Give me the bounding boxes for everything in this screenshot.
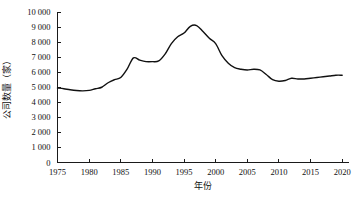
x-tick-label: 1985	[112, 167, 129, 177]
x-tick-label: 1990	[144, 167, 161, 177]
chart-container: 01 0002 0003 0004 0005 0006 0007 0008 00…	[0, 0, 363, 213]
y-tick-label: 2 000	[31, 127, 50, 137]
y-axis-tick-labels: 01 0002 0003 0004 0005 0006 0007 0008 00…	[27, 7, 50, 168]
x-tick-label: 2000	[207, 167, 224, 177]
y-tick-label: 5 000	[31, 82, 50, 92]
x-tick-label: 2005	[239, 167, 256, 177]
y-axis-title: 公司数量（家）	[1, 56, 12, 119]
data-series-line	[58, 25, 343, 91]
y-tick-label: 6 000	[31, 67, 50, 77]
y-tick-label: 9 000	[31, 22, 50, 32]
y-tick-label: 1 000	[31, 142, 50, 152]
y-axis-tick-marks	[58, 12, 62, 163]
y-tick-label: 7 000	[31, 52, 50, 62]
x-tick-label: 1975	[49, 167, 66, 177]
y-tick-label: 3 000	[31, 112, 50, 122]
x-tick-label: 2020	[334, 167, 351, 177]
y-tick-label: 4 000	[31, 97, 50, 107]
x-tick-label: 2015	[302, 167, 319, 177]
x-tick-label: 1995	[176, 167, 193, 177]
x-axis-tick-labels: 1975198019851990199520002005201020152020	[49, 167, 351, 177]
x-tick-label: 2010	[270, 167, 287, 177]
y-tick-label: 8 000	[31, 37, 50, 47]
line-chart: 01 0002 0003 0004 0005 0006 0007 0008 00…	[0, 0, 363, 213]
y-tick-label: 10 000	[27, 7, 50, 17]
y-tick-label: 0	[46, 158, 50, 168]
x-tick-label: 1980	[81, 167, 98, 177]
x-axis-title: 年份	[194, 180, 212, 191]
x-axis-tick-marks	[58, 159, 343, 163]
